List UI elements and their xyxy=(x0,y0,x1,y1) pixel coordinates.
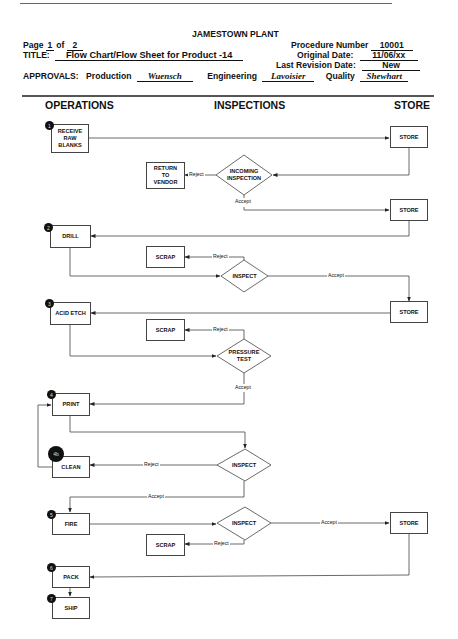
accept-label: Accept xyxy=(234,385,252,390)
reject-label: Reject xyxy=(212,254,229,259)
inspect-2: INSPECT xyxy=(217,459,271,471)
step-drill: DRILL xyxy=(50,225,91,248)
step-print: PRINT xyxy=(52,393,90,416)
step-badge: 4b xyxy=(48,446,64,462)
step-pack: PACK xyxy=(52,566,90,588)
step-badge: 1 xyxy=(45,121,54,130)
step-ship: SHIP xyxy=(52,597,90,619)
step-badge: 5 xyxy=(47,510,56,519)
step-fire: FIRE xyxy=(52,513,90,535)
step-badge: 3 xyxy=(45,299,54,308)
accept-label: Accept xyxy=(327,273,345,278)
pressure-test: PRESSURE TEST xyxy=(217,347,271,365)
step-receive-raw-blanks: RECEIVE RAW BLANKS xyxy=(51,124,89,153)
return-to-vendor-box: RETURN TO VENDOR xyxy=(146,162,185,189)
store-box: STORE xyxy=(390,512,428,534)
scrap-box: SCRAP xyxy=(146,534,185,556)
incoming-inspection: INCOMING INSPECTION xyxy=(216,163,272,187)
store-box: STORE xyxy=(390,301,428,323)
store-box: STORE xyxy=(390,199,428,221)
accept-label: Accept xyxy=(147,494,165,499)
inspect-1: INSPECT xyxy=(221,270,268,282)
scrap-box: SCRAP xyxy=(146,246,185,268)
step-badge: 2 xyxy=(44,223,53,232)
store-box: STORE xyxy=(390,126,428,148)
step-badge: 4 xyxy=(47,390,56,399)
reject-label: Reject xyxy=(143,462,160,467)
step-badge: 7 xyxy=(47,594,56,603)
accept-label: Accept xyxy=(234,199,252,204)
step-badge: 6 xyxy=(47,563,56,572)
reject-label: Reject xyxy=(188,172,205,177)
reject-label: Reject xyxy=(213,541,230,546)
inspect-3: INSPECT xyxy=(217,517,271,529)
step-acid-etch: ACID ETCH xyxy=(50,302,91,325)
scrap-box: SCRAP xyxy=(146,319,185,341)
reject-label: Reject xyxy=(212,327,229,332)
accept-label: Accept xyxy=(320,520,338,525)
